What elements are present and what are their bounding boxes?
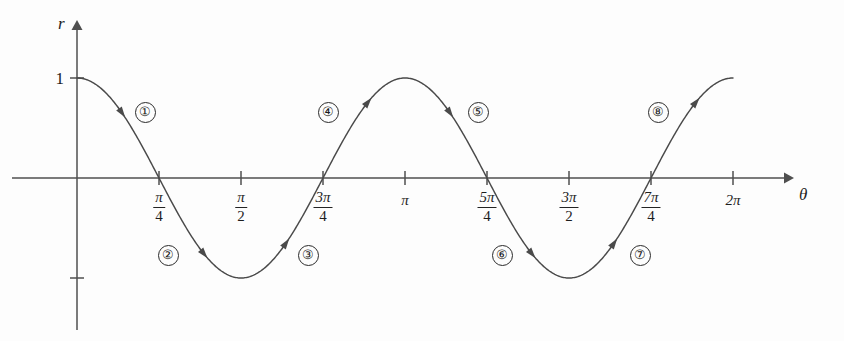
fraction-numerator: 3π [559,190,578,208]
x-axis-arrowhead [784,173,794,184]
curve-direction-arrow-5 [444,107,456,120]
curve-direction-arrow-1 [116,107,128,120]
fraction: π4 [153,190,165,224]
fraction: 3π4 [313,190,332,224]
fraction: 7π4 [641,190,660,224]
y-value-one-label: 1 [44,70,64,87]
fraction-denominator: 2 [559,208,578,225]
curve-direction-arrow-7 [608,236,620,249]
fraction-numerator: π [235,190,247,208]
x-axis [12,171,794,185]
x-tick-label-2: 3π4 [313,190,332,224]
fraction-denominator: 4 [477,208,496,225]
x-tick-label-6: 7π4 [641,190,660,224]
segment-marker-3: ③ [298,245,319,266]
fraction: π2 [235,190,247,224]
curve-direction-arrow-3 [280,236,292,249]
x-tick-label-3: π [401,190,409,208]
fraction-numerator: 7π [641,190,660,208]
fraction: 5π4 [477,190,496,224]
segment-marker-7: ⑦ [630,245,651,266]
tick-text: π [401,192,409,208]
segment-marker-4: ④ [318,102,339,123]
x-tick-label-0: π4 [153,190,165,224]
plot-canvas [0,0,844,341]
x-tick-label-4: 5π4 [477,190,496,224]
y-axis [70,20,84,330]
fraction: 3π2 [559,190,578,224]
fraction-numerator: π [153,190,165,208]
segment-marker-1: ① [135,102,156,123]
x-tick-label-5: 3π2 [559,190,578,224]
segment-marker-8: ⑧ [648,102,669,123]
x-tick-label-1: π2 [235,190,247,224]
x-tick-label-7: 2π [725,190,740,208]
segment-marker-2: ② [158,245,179,266]
fraction-denominator: 4 [313,208,332,225]
fraction-denominator: 2 [235,208,247,225]
fraction-denominator: 4 [153,208,165,225]
segment-marker-6: ⑥ [492,245,513,266]
tick-text: 2π [725,192,740,208]
fraction-denominator: 4 [641,208,660,225]
x-axis-label: θ [799,186,807,203]
polar-curve-figure: r θ 1 π4π23π4π5π43π27π42π ①②③④⑤⑥⑦⑧ [0,0,844,341]
segment-marker-5: ⑤ [468,102,489,123]
y-axis-label: r [58,15,65,32]
fraction-numerator: 5π [477,190,496,208]
fraction-numerator: 3π [313,190,332,208]
y-axis-arrowhead [72,20,83,30]
